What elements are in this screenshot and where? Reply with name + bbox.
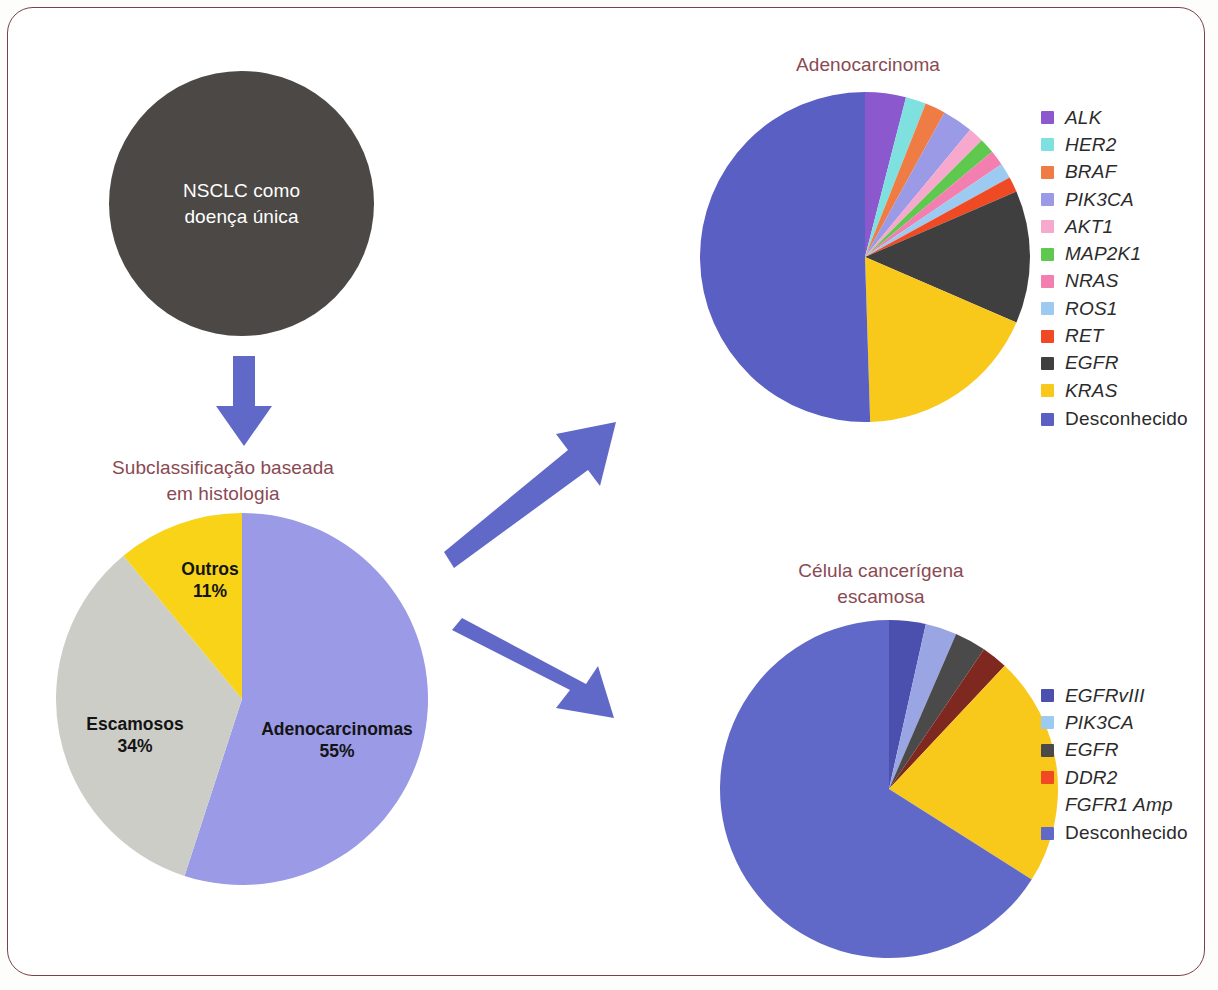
- adeno-legend-swatch-icon: [1041, 193, 1054, 206]
- squamous-legend-item: DDR2: [1041, 764, 1188, 791]
- adeno-legend-swatch-icon: [1041, 357, 1054, 370]
- adeno-legend-label: AKT1: [1065, 216, 1113, 238]
- adeno-legend-swatch-icon: [1041, 248, 1054, 261]
- arrow-down-icon: [204, 356, 284, 448]
- squamous-legend-swatch-icon: [1041, 716, 1054, 729]
- diagram-frame: NSCLC como doença única Subclassificação…: [7, 7, 1205, 976]
- adeno-legend-label: PIK3CA: [1065, 189, 1134, 211]
- histology-label-adenocarcinomas: Adenocarcinomas 55%: [242, 718, 432, 762]
- squamous-legend-swatch-icon: [1041, 771, 1054, 784]
- squamous-legend-label: FGFR1 Amp: [1065, 794, 1173, 816]
- adeno-legend-swatch-icon: [1041, 384, 1054, 397]
- squamous-legend-item: Desconhecido: [1041, 818, 1188, 848]
- adeno-legend-item: AKT1: [1041, 213, 1188, 240]
- squamous-legend-swatch-icon: [1041, 689, 1054, 702]
- adeno-legend-label: ALK: [1065, 107, 1102, 129]
- adeno-slice-desconhecido: [700, 92, 870, 422]
- squamous-title-line1: Célula cancerígena: [798, 560, 964, 581]
- squamous-legend-item: PIK3CA: [1041, 709, 1188, 736]
- adeno-legend-label: RET: [1065, 325, 1104, 347]
- histology-label-escamosos: Escamosos 34%: [60, 713, 210, 757]
- squamous-legend-label: EGFR: [1065, 739, 1119, 761]
- squamous-title-line2: escamosa: [837, 586, 924, 607]
- nsclc-source-node: NSCLC como doença única: [109, 71, 374, 336]
- adeno-legend-label: KRAS: [1065, 380, 1118, 402]
- adeno-legend-item: Desconhecido: [1041, 404, 1188, 434]
- adeno-legend-label: MAP2K1: [1065, 243, 1141, 265]
- histology-label-escamosos-name: Escamosos: [86, 714, 183, 734]
- histology-title-line2: em histologia: [166, 483, 279, 504]
- nsclc-source-line2: doença única: [184, 206, 298, 227]
- nsclc-source-label: NSCLC como doença única: [183, 178, 300, 229]
- squamous-legend-label: EGFRvIII: [1065, 685, 1145, 707]
- squamous-pie-chart: [720, 620, 1058, 958]
- adenocarcinoma-title-text: Adenocarcinoma: [796, 54, 940, 75]
- histology-label-escamosos-pct: 34%: [60, 735, 210, 757]
- histology-chart-title: Subclassificação baseada em histologia: [78, 455, 368, 506]
- arrow-down-right-icon: [448, 618, 638, 728]
- adeno-legend-label: NRAS: [1065, 270, 1119, 292]
- arrow-up-right-icon: [440, 412, 630, 572]
- adeno-legend-label: Desconhecido: [1065, 408, 1188, 430]
- adeno-legend-item: ALK: [1041, 104, 1188, 131]
- adeno-legend-item: RET: [1041, 322, 1188, 349]
- squamous-legend-item: EGFR: [1041, 737, 1188, 764]
- adenocarcinoma-legend: ALKHER2BRAFPIK3CAAKT1MAP2K1NRASROS1RETEG…: [1041, 104, 1188, 434]
- nsclc-source-line1: NSCLC como: [183, 180, 300, 201]
- adeno-legend-item: KRAS: [1041, 377, 1188, 404]
- squamous-chart-title: Célula cancerígena escamosa: [726, 558, 1036, 609]
- squamous-legend-label: Desconhecido: [1065, 822, 1188, 844]
- adeno-legend-swatch-icon: [1041, 111, 1054, 124]
- adenocarcinoma-chart-title: Adenocarcinoma: [708, 52, 1028, 78]
- adeno-legend-item: HER2: [1041, 131, 1188, 158]
- histology-label-outros: Outros 11%: [150, 558, 270, 602]
- adeno-legend-swatch-icon: [1041, 138, 1054, 151]
- adeno-legend-swatch-icon: [1041, 220, 1054, 233]
- squamous-legend-item: FGFR1 Amp: [1041, 791, 1188, 818]
- adeno-legend-label: HER2: [1065, 134, 1116, 156]
- squamous-legend-label: DDR2: [1065, 767, 1118, 789]
- squamous-legend-label: PIK3CA: [1065, 712, 1134, 734]
- adeno-legend-item: BRAF: [1041, 159, 1188, 186]
- histology-label-adeno-name: Adenocarcinomas: [261, 719, 413, 739]
- adeno-legend-swatch-icon: [1041, 330, 1054, 343]
- adeno-legend-item: MAP2K1: [1041, 240, 1188, 267]
- histology-label-outros-name: Outros: [181, 559, 238, 579]
- histology-title-line1: Subclassificação baseada: [112, 457, 334, 478]
- adeno-legend-swatch-icon: [1041, 275, 1054, 288]
- adeno-legend-swatch-icon: [1041, 166, 1054, 179]
- adeno-legend-item: PIK3CA: [1041, 186, 1188, 213]
- adeno-legend-label: EGFR: [1065, 352, 1119, 374]
- adeno-legend-swatch-icon: [1041, 302, 1054, 315]
- adeno-legend-item: ROS1: [1041, 295, 1188, 322]
- histology-label-adeno-pct: 55%: [242, 740, 432, 762]
- squamous-legend: EGFRvIIIPIK3CAEGFRDDR2FGFR1 AmpDesconhec…: [1041, 682, 1188, 848]
- adeno-legend-label: BRAF: [1065, 161, 1116, 183]
- adeno-legend-item: EGFR: [1041, 350, 1188, 377]
- adeno-legend-swatch-icon: [1041, 413, 1054, 426]
- squamous-legend-swatch-icon: [1041, 744, 1054, 757]
- squamous-legend-swatch-icon: [1041, 827, 1054, 840]
- histology-label-outros-pct: 11%: [150, 580, 270, 602]
- squamous-legend-item: EGFRvIII: [1041, 682, 1188, 709]
- adeno-legend-item: NRAS: [1041, 268, 1188, 295]
- squamous-legend-swatch-icon: [1041, 798, 1054, 811]
- adeno-legend-label: ROS1: [1065, 298, 1118, 320]
- adenocarcinoma-pie-chart: [700, 92, 1030, 422]
